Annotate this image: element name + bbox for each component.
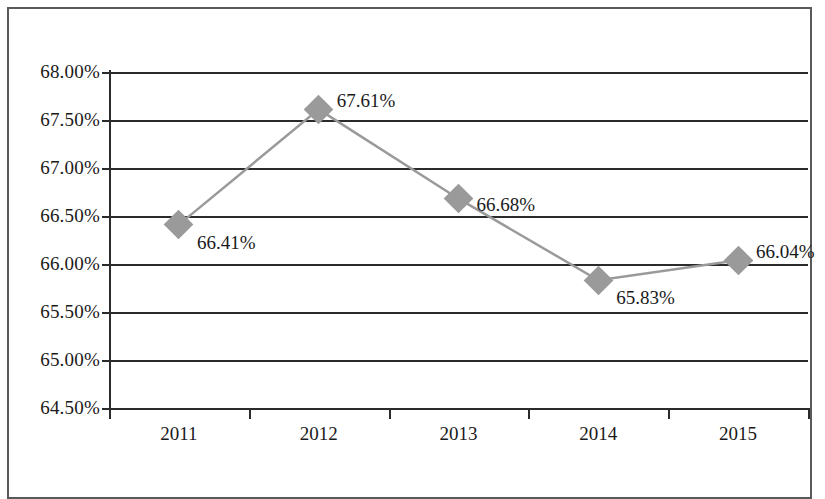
data-point-value-label: 66.41%: [197, 233, 256, 252]
data-point-value-label: 65.83%: [616, 288, 675, 307]
data-point-value-label: 67.61%: [337, 91, 396, 110]
data-point-value-label: 66.68%: [477, 195, 536, 214]
data-point-value-label: 66.04%: [756, 242, 815, 261]
